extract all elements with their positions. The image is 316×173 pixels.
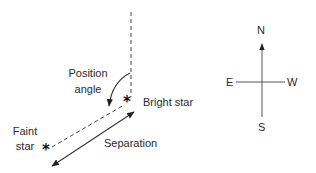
faint-star-label-line2: star	[10, 140, 40, 153]
bright-star-marker-icon: *	[123, 95, 131, 110]
separation-label: Separation	[104, 137, 157, 150]
position-angle-label-line2: angle	[66, 83, 110, 96]
compass-west-label: W	[287, 76, 297, 89]
faint-star-marker-icon: *	[42, 143, 50, 158]
double-star-diagram: * * Position angle Bright star Faint sta…	[0, 0, 316, 173]
bright-star-label: Bright star	[143, 96, 193, 109]
compass-north-label: N	[257, 24, 265, 37]
faint-star-label-line1: Faint	[10, 125, 40, 138]
position-angle-label-line1: Position	[66, 67, 110, 80]
compass-south-label: S	[258, 121, 265, 134]
compass-east-label: E	[226, 76, 233, 89]
